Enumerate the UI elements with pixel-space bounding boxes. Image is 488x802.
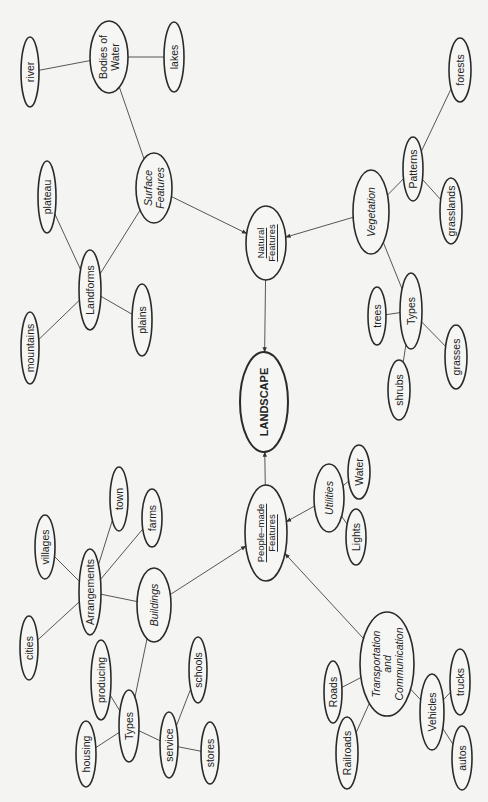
edge-transport-vehicles bbox=[411, 689, 421, 700]
node-utilities: Utilities bbox=[314, 464, 344, 532]
node-label: Landforms bbox=[84, 265, 96, 315]
edge-transport-roads bbox=[342, 678, 361, 688]
node-label: plateau bbox=[41, 180, 53, 215]
edge-utilities-lights bbox=[342, 516, 347, 524]
node-label: trucks bbox=[454, 668, 466, 696]
node-shrubs: shrubs bbox=[388, 360, 410, 420]
edge-landforms-plains bbox=[101, 296, 132, 314]
node-label: Natural bbox=[255, 228, 266, 259]
node-villages: villages bbox=[35, 515, 55, 579]
node-vehicles: Vehicles bbox=[420, 674, 444, 750]
node-grasses: grasses bbox=[445, 325, 467, 389]
node-label: People–made bbox=[255, 504, 266, 563]
node-service: service bbox=[160, 712, 178, 778]
node-autos: autos bbox=[452, 726, 472, 790]
node-label: housing bbox=[80, 735, 92, 772]
edge-vegetation-natural bbox=[286, 217, 353, 237]
node-railroads: Railroads bbox=[336, 717, 358, 789]
node-surface: SurfaceFeatures bbox=[136, 153, 172, 223]
node-grasslands: grasslands bbox=[440, 178, 462, 244]
node-label: Features bbox=[266, 514, 277, 552]
node-label: stores bbox=[204, 739, 216, 768]
edge-vegetation-vegtypes bbox=[383, 243, 402, 289]
edge-natural-landscape bbox=[265, 280, 266, 352]
node-label: Railroads bbox=[341, 731, 353, 775]
edge-vehicles-autos bbox=[443, 729, 453, 745]
node-label: grasslands bbox=[445, 186, 457, 237]
node-label: forests bbox=[454, 54, 466, 86]
node-layer: LANDSCAPENaturalFeaturesPeople–madeFeatu… bbox=[20, 21, 472, 790]
node-natural: NaturalFeatures bbox=[246, 206, 286, 280]
node-label: Types bbox=[405, 297, 417, 325]
node-label: lakes bbox=[168, 45, 180, 70]
edge-landforms-mountains bbox=[39, 300, 80, 339]
node-lights: Lights bbox=[346, 509, 366, 565]
concept-map-canvas: LANDSCAPENaturalFeaturesPeople–madeFeatu… bbox=[0, 0, 488, 802]
edge-bldtypes-housing bbox=[96, 732, 119, 747]
edge-transport-peoplemade bbox=[285, 554, 363, 639]
node-mountains: mountains bbox=[21, 312, 39, 384]
node-label: town bbox=[113, 488, 125, 510]
node-housing: housing bbox=[76, 721, 96, 787]
node-label: farms bbox=[146, 505, 158, 531]
edge-service-schools bbox=[176, 689, 190, 726]
node-water: Water bbox=[348, 445, 370, 499]
node-producing: producing bbox=[91, 640, 111, 720]
node-transport: TransportationandCommunication bbox=[360, 612, 414, 716]
edge-bldtypes-service bbox=[139, 731, 160, 741]
node-label: mountains bbox=[24, 324, 36, 372]
node-label: producing bbox=[95, 657, 107, 703]
edge-landforms-plateau bbox=[55, 214, 81, 269]
node-label: service bbox=[163, 728, 175, 761]
node-label: Bodies of bbox=[97, 35, 109, 79]
edge-peoplemade-landscape bbox=[265, 452, 266, 485]
node-label: autos bbox=[456, 745, 468, 771]
edge-buildings-bldtypes bbox=[135, 639, 147, 697]
node-plains: plains bbox=[132, 284, 152, 356]
node-label: Arrangements bbox=[84, 559, 96, 625]
node-forests: forests bbox=[449, 38, 471, 102]
edge-surface-landforms bbox=[100, 210, 140, 274]
node-landscape: LANDSCAPE bbox=[240, 352, 288, 452]
node-label: and bbox=[381, 654, 393, 673]
node-label: grasses bbox=[450, 339, 462, 376]
node-label: Utilities bbox=[323, 480, 335, 515]
node-river: river bbox=[21, 37, 39, 107]
node-schools: schools bbox=[189, 637, 207, 703]
node-label: shrubs bbox=[393, 374, 405, 406]
node-label: Transportation bbox=[370, 630, 382, 697]
edge-service-stores bbox=[178, 747, 201, 751]
node-label: Communication bbox=[393, 627, 405, 700]
edge-surface-bodies bbox=[119, 87, 144, 159]
node-lakes: lakes bbox=[164, 22, 184, 92]
edge-arrangements-town bbox=[99, 520, 113, 564]
node-label: LANDSCAPE bbox=[258, 368, 270, 436]
node-label: plains bbox=[136, 306, 148, 333]
edge-vegtypes-trees bbox=[386, 313, 400, 315]
node-peoplemade: People–madeFeatures bbox=[245, 485, 287, 581]
node-label: Water bbox=[109, 43, 121, 71]
edge-utilities-water bbox=[343, 481, 349, 486]
edge-vegtypes-grasses bbox=[422, 322, 446, 347]
node-landforms: Landforms bbox=[79, 250, 101, 330]
node-roads: Roads bbox=[324, 661, 342, 723]
node-label: Roads bbox=[327, 677, 339, 707]
edge-vegetation-patterns bbox=[387, 179, 403, 195]
node-bodies: Bodies ofWater bbox=[90, 21, 128, 93]
node-label: cities bbox=[23, 636, 35, 660]
node-arrangements: Arrangements bbox=[79, 549, 101, 635]
edge-patterns-forests bbox=[421, 89, 451, 152]
node-stores: stores bbox=[201, 722, 219, 784]
node-vegtypes: Types bbox=[400, 273, 422, 349]
node-label: villages bbox=[39, 529, 51, 564]
node-label: Surface bbox=[142, 170, 154, 206]
edge-buildings-arrangements bbox=[101, 594, 137, 601]
node-label: Features bbox=[154, 167, 166, 209]
node-trees: trees bbox=[368, 287, 386, 345]
edge-bodies-river bbox=[39, 61, 90, 71]
edge-arrangements-villages bbox=[55, 557, 80, 582]
edge-vegtypes-shrubs bbox=[403, 345, 406, 363]
node-label: Buildings bbox=[148, 583, 160, 626]
edge-arrangements-cities bbox=[38, 602, 80, 640]
node-trucks: trucks bbox=[450, 649, 470, 715]
